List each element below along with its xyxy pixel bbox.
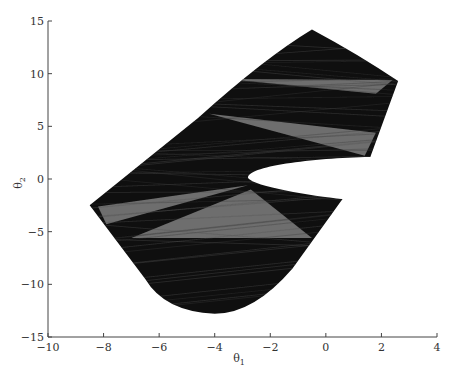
x-tick-label: 2 bbox=[378, 341, 385, 354]
y-tick-label: −10 bbox=[21, 278, 44, 291]
x-tick-label: −2 bbox=[262, 341, 278, 354]
y-tick-label: 0 bbox=[37, 173, 44, 186]
x-axis: −10−8−6−4−2024 bbox=[36, 333, 440, 354]
x-tick-label: −10 bbox=[36, 341, 59, 354]
x-tick-label: −8 bbox=[95, 341, 111, 354]
x-axis-label: θ1 bbox=[233, 352, 245, 367]
x-tick-label: 0 bbox=[322, 341, 329, 354]
x-tick-label: −6 bbox=[151, 341, 167, 354]
x-tick-label: −4 bbox=[207, 341, 223, 354]
y-tick-label: −5 bbox=[28, 226, 44, 239]
y-tick-label: 10 bbox=[30, 68, 44, 81]
plot-region bbox=[60, 15, 420, 317]
y-tick-label: 5 bbox=[37, 120, 44, 133]
y-axis-label: θ2 bbox=[12, 177, 27, 189]
chart: 151050−5−10−15 −10−8−6−4−2024 θ1 θ2 bbox=[0, 0, 458, 385]
y-tick-label: 15 bbox=[30, 15, 44, 28]
x-tick-label: 4 bbox=[434, 341, 441, 354]
